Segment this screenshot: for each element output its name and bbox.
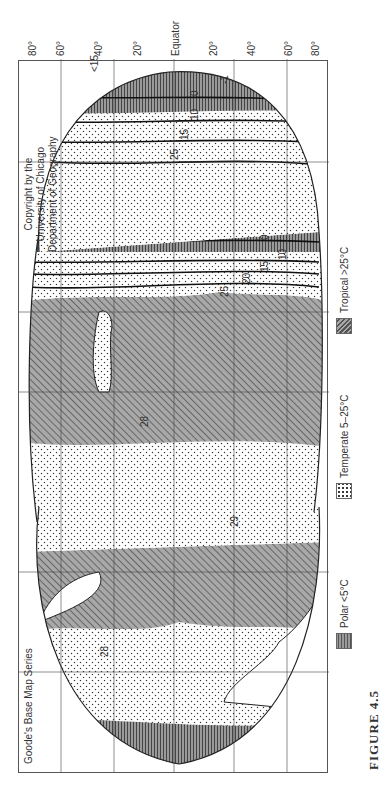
latitude-label: 40° bbox=[246, 41, 257, 56]
legend-item-tropical: Tropical >25°C bbox=[336, 247, 352, 334]
latitude-label: 60° bbox=[283, 41, 294, 56]
series-title: Goode's Base Map Series bbox=[23, 648, 35, 764]
isotherm-label: 28 bbox=[99, 646, 111, 657]
latitude-label: 20° bbox=[208, 41, 219, 56]
legend-label: Polar <5°C bbox=[339, 579, 350, 628]
polar-swatch-icon bbox=[336, 633, 352, 649]
copyright-line-2: University of Chicago bbox=[35, 136, 47, 252]
isotherm-label: 0 bbox=[259, 234, 271, 240]
goode-homolosine-map bbox=[19, 59, 329, 772]
tropical-swatch-icon bbox=[336, 318, 352, 334]
isotherm-label: 0 bbox=[189, 90, 201, 96]
latitude-label: 60° bbox=[55, 41, 66, 56]
isotherm-label: 15 bbox=[179, 129, 191, 140]
isotherm-label: 10 bbox=[189, 109, 201, 120]
legend-item-polar: Polar <5°C bbox=[336, 579, 352, 649]
latitude-label: 80° bbox=[310, 41, 321, 56]
isotherm-label: 20 bbox=[241, 273, 253, 284]
copyright-line-1: Copyright by the bbox=[23, 136, 35, 252]
figure-label: FIGURE 4.5 bbox=[366, 690, 382, 770]
temperate-swatch-icon bbox=[336, 483, 352, 499]
isotherm-label: 10 bbox=[277, 249, 289, 260]
legend-label: Tropical >25°C bbox=[339, 247, 350, 313]
map-frame: Goode's Base Map Series Copyright by the… bbox=[18, 60, 328, 773]
rotated-figure: Goode's Base Map Series Copyright by the… bbox=[0, 0, 385, 804]
isotherm-label: 15 bbox=[259, 261, 271, 272]
isotherm-label: -1 bbox=[219, 75, 231, 84]
isotherm-label: 28 bbox=[139, 416, 151, 427]
isotherm-label: <15 bbox=[89, 55, 101, 72]
equator-label: Equator bbox=[170, 21, 181, 56]
isotherm-label: 29 bbox=[229, 516, 241, 527]
latitude-label: 40° bbox=[93, 41, 104, 56]
legend-item-temperate: Temperate 5–25°C bbox=[336, 395, 352, 500]
latitude-label: 20° bbox=[132, 41, 143, 56]
copyright-note: Copyright by the University of Chicago D… bbox=[23, 136, 59, 252]
isotherm-label: 25 bbox=[219, 286, 231, 297]
copyright-line-3: Department of Geography bbox=[47, 136, 59, 252]
legend-label: Temperate 5–25°C bbox=[339, 395, 350, 479]
latitude-label: 80° bbox=[27, 41, 38, 56]
isotherm-label: 25 bbox=[169, 149, 181, 160]
